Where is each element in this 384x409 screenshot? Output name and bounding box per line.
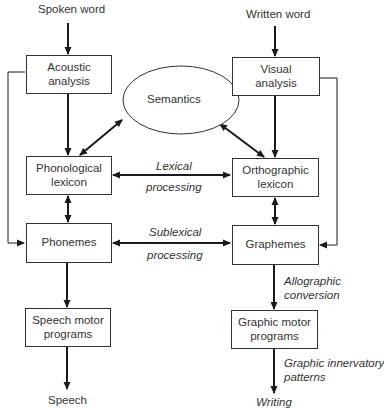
- node-graphemes: Graphemes: [232, 225, 319, 265]
- node-semantics-label: Semantics: [147, 93, 201, 105]
- output-speech: Speech: [48, 394, 87, 406]
- node-acoustic-analysis: Acoustic analysis: [26, 55, 112, 94]
- edge-label-allographic: Allographic: [284, 275, 341, 287]
- node-speech-motor-programs-label: Speech motor programs: [28, 314, 108, 341]
- node-orthographic-lexicon-label: Orthographic lexicon: [236, 164, 316, 191]
- node-phonemes: Phonemes: [26, 223, 112, 263]
- node-phonological-lexicon: Phonological lexicon: [26, 156, 112, 195]
- node-visual-analysis-label: Visual analysis: [246, 63, 306, 90]
- edge-label-patterns: patterns: [284, 371, 326, 383]
- node-phonemes-label: Phonemes: [42, 236, 97, 250]
- output-writing: Writing: [256, 396, 292, 408]
- node-orthographic-lexicon: Orthographic lexicon: [232, 158, 319, 197]
- node-graphic-motor-programs-label: Graphic motor programs: [235, 316, 315, 343]
- edge-label-lexical-processing: processing: [146, 181, 202, 193]
- node-speech-motor-programs: Speech motor programs: [25, 308, 111, 347]
- input-written-word: Written word: [246, 8, 310, 20]
- node-visual-analysis: Visual analysis: [232, 57, 320, 96]
- node-acoustic-analysis-label: Acoustic analysis: [39, 61, 99, 88]
- node-phonological-lexicon-label: Phonological lexicon: [29, 162, 109, 189]
- node-graphemes-label: Graphemes: [245, 238, 305, 252]
- edge-label-sublexical-processing: processing: [147, 249, 203, 261]
- edge-label-lexical: Lexical: [156, 160, 192, 172]
- edge-label-graphic-innervatory: Graphic innervatory: [284, 357, 384, 369]
- input-spoken-word: Spoken word: [38, 3, 105, 15]
- edge-label-sublexical: Sublexical: [149, 226, 201, 238]
- edge-label-allographic-conversion: conversion: [284, 289, 340, 301]
- node-graphic-motor-programs: Graphic motor programs: [231, 310, 318, 349]
